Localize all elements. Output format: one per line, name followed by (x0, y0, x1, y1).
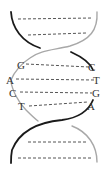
strand-black-top (11, 12, 40, 48)
top-rungs (18, 18, 93, 35)
base-label-right-4: A (87, 100, 95, 112)
base-label-right-2: T (93, 74, 100, 86)
rung-pair-2 (16, 79, 94, 80)
base-label-left-2: A (6, 74, 14, 86)
strand-gray-bottom (72, 126, 97, 162)
rung-pair-1 (26, 64, 89, 67)
dna-helix-diagram: G A C T C T G A (0, 0, 110, 176)
rung-top-1 (18, 18, 93, 19)
bottom-rungs (18, 142, 92, 158)
rung-top-2 (28, 33, 86, 35)
left-base-labels: G A C T (6, 59, 25, 112)
base-pair-rungs (16, 64, 94, 106)
right-base-labels: C T G A (87, 61, 100, 112)
base-label-left-1: G (17, 59, 25, 71)
base-label-left-4: T (18, 100, 25, 112)
strand-black (11, 12, 93, 163)
rung-pair-3 (20, 92, 92, 93)
base-label-right-3: G (92, 87, 100, 99)
base-label-right-1: C (88, 61, 95, 73)
base-label-left-3: C (9, 87, 16, 99)
rung-pair-4 (29, 102, 88, 106)
